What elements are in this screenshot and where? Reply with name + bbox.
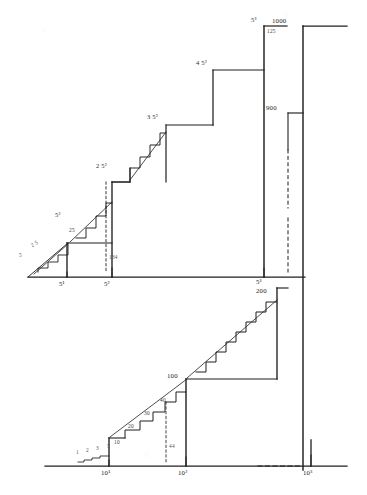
lower-axis-tick-10pow1: 10¹ [101,470,110,477]
lower-label-5: 5 [107,444,110,449]
lower-axis-tick-10pow3: 10³ [303,470,312,477]
upper-label-5-cubed: 5³ [251,17,257,24]
upper-axis-tick-5pow3: 5³ [256,279,262,286]
lower-staircase-diagonal-guide [187,300,277,378]
lower-label-44: 44 [169,444,175,449]
lower-label-20: 20 [128,424,134,429]
lower-label-1: 1 [76,450,79,455]
upper-diagonal-guide-1 [28,243,68,277]
lower-label-40: 40 [160,398,166,403]
figure-root: 5 2 5 5² 25 2 5² 3 5² 4 5² 5³ 125 134 5¹… [0,0,367,495]
upper-staircase-c [130,133,166,182]
lower-label-2: 2 [86,448,89,453]
lower-label-100: 100 [167,373,178,380]
upper-label-25: 25 [69,228,75,233]
lower-label-10: 10 [114,440,120,445]
upper-label-4-times-5-squared: 4 5² [196,60,207,67]
upper-label-5-squared: 5² [55,212,61,219]
lower-diagonal-guide [110,379,187,437]
upper-axis-tick-5pow1: 5¹ [59,281,65,288]
lower-axis-tick-10pow2: 10² [178,470,187,477]
upper-step-2x5sq [112,168,130,182]
upper-label-5-squared-text: 5² [55,211,61,218]
upper-staircase-b [76,203,112,238]
lower-label-200: 200 [256,288,267,295]
upper-axis-tick-5pow2: 5² [104,281,110,288]
upper-label-134: 134 [109,255,118,260]
upper-label-5: 5 [19,253,22,258]
upper-diagonal-guide-2 [34,244,68,274]
upper-label-125: 125 [267,29,276,34]
lower-staircase-main [125,392,186,438]
lower-label-3: 3 [96,446,99,451]
upper-diagonal-guide-4 [130,132,166,180]
upper-label-2-times-5-squared: 2 5² [96,163,107,170]
diagram-canvas [0,0,367,495]
upper-label-3-times-5-squared: 3 5² [147,114,158,121]
lower-staircase-upper [196,302,277,372]
right-column-label-900: 900 [266,105,277,112]
lower-ministeps-123 [78,456,109,462]
lower-label-30: 30 [144,411,150,416]
right-column-label-1000: 1000 [272,18,286,25]
